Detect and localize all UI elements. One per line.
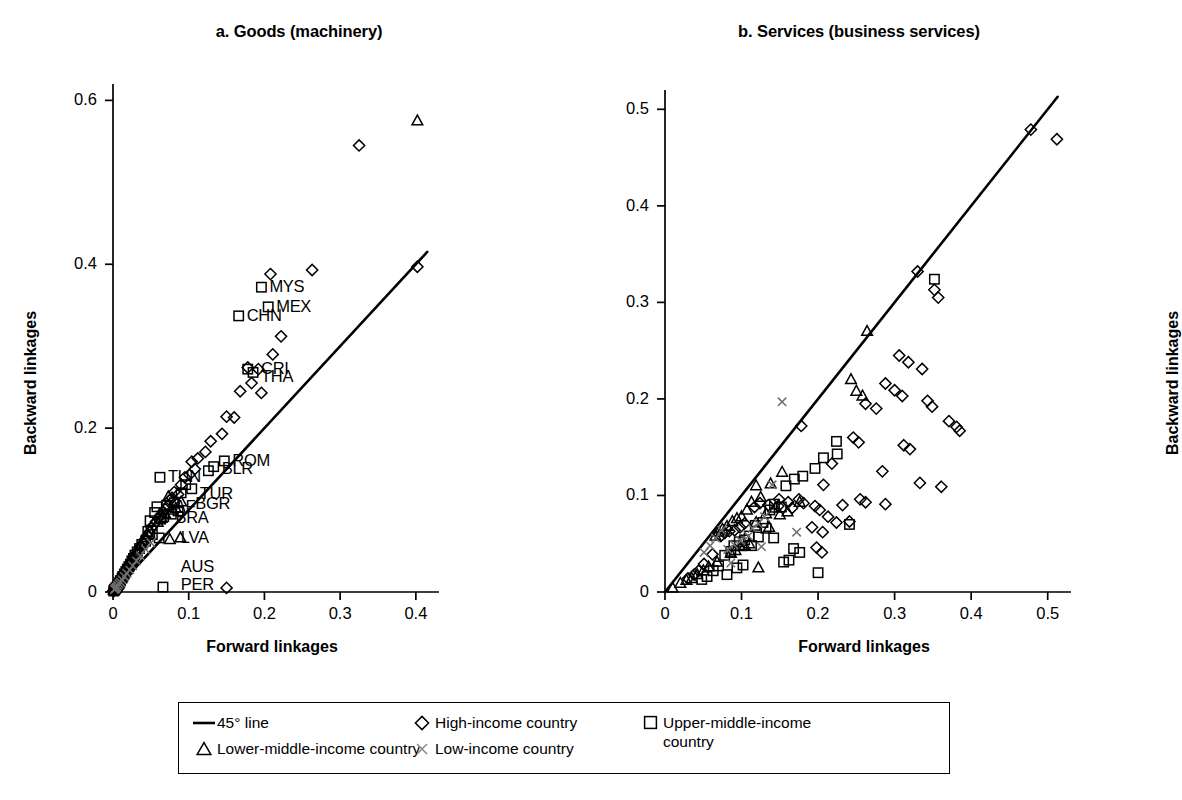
point-label: THA <box>261 368 293 385</box>
x-tick-label: 0.3 <box>310 604 370 623</box>
panel-b-plot <box>564 0 1134 690</box>
line-icon <box>191 713 217 732</box>
legend-item-low-income: Low-income country <box>409 739 637 758</box>
x-tick-label: 0.4 <box>941 604 1001 623</box>
panel-goods: a. Goods (machinery) Backward linkages F… <box>0 0 570 690</box>
point-label: CHN <box>247 307 282 324</box>
x-tick-label: 0.3 <box>865 604 925 623</box>
point-label: AUS <box>181 558 214 575</box>
triangle-icon <box>191 739 217 758</box>
x-tick-label: 0.1 <box>712 604 772 623</box>
y-tick-label: 0.2 <box>589 389 649 408</box>
series-triangle <box>108 115 422 594</box>
cross-icon <box>409 739 435 758</box>
square-icon <box>637 713 663 732</box>
legend: 45° line High-income country Upper-middl… <box>178 702 950 774</box>
y-tick-label: 0.1 <box>589 485 649 504</box>
point-label: MYS <box>269 278 304 295</box>
panel-services: b. Services (business services) Backward… <box>564 0 1134 690</box>
point-label: BLR <box>222 460 253 477</box>
y-tick-label: 0 <box>37 582 97 601</box>
y-tick-label: 0.3 <box>589 292 649 311</box>
diamond-icon <box>409 713 435 732</box>
x-tick-label: 0 <box>83 604 143 623</box>
legend-label-45-line: 45° line <box>217 713 269 732</box>
x-tick-label: 0.4 <box>386 604 446 623</box>
series-square <box>697 275 939 585</box>
panel-b-y-axis-title: Backward linkages <box>1164 311 1182 455</box>
legend-label-low-income: Low-income country <box>435 739 574 758</box>
legend-label-lower-middle-income: Lower-middle-income country <box>217 739 420 758</box>
point-label: TUN <box>168 468 201 485</box>
y-tick-label: 0.4 <box>589 196 649 215</box>
y-tick-label: 0.2 <box>37 418 97 437</box>
y-tick-label: 0.4 <box>37 254 97 273</box>
legend-label-upper-middle-income: Upper-middle-income country <box>663 713 831 751</box>
legend-item-upper-middle-income: Upper-middle-income country <box>637 713 837 751</box>
x-tick-label: 0.1 <box>159 604 219 623</box>
y-tick-label: 0 <box>589 582 649 601</box>
legend-item-45-line: 45° line <box>191 713 409 732</box>
x-tick-label: 0.2 <box>788 604 848 623</box>
legend-item-high-income: High-income country <box>409 713 637 732</box>
point-label: BRA <box>176 509 209 526</box>
x-tick-label: 0.2 <box>234 604 294 623</box>
y-tick-label: 0.6 <box>37 90 97 109</box>
point-label: PER <box>181 576 214 593</box>
x-tick-label: 0 <box>635 604 695 623</box>
legend-row-bottom: Lower-middle-income country Low-income c… <box>191 739 637 758</box>
legend-item-lower-middle-income: Lower-middle-income country <box>191 739 409 758</box>
legend-label-high-income: High-income country <box>435 713 577 732</box>
x-tick-label: 0.5 <box>1018 604 1078 623</box>
point-label: LVA <box>181 529 209 546</box>
y-tick-label: 0.5 <box>589 99 649 118</box>
